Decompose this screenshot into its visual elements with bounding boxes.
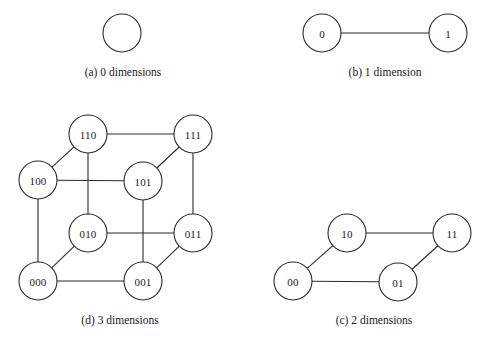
edge-001-011: [157, 246, 180, 268]
edge-00-01: [312, 281, 379, 282]
node-circle: [103, 14, 141, 52]
node-label: 1: [445, 28, 451, 40]
node-label: 01: [392, 277, 403, 289]
node-label: 001: [134, 276, 151, 288]
node-label: 011: [185, 228, 202, 240]
edge-100-110: [52, 147, 74, 167]
node-110[interactable]: 110: [69, 115, 107, 153]
node-label: 00: [287, 276, 299, 288]
panel-caption-a: (a) 0 dimensions: [85, 66, 162, 79]
node-label: 110: [80, 129, 97, 141]
node-00[interactable]: 00: [274, 262, 312, 300]
edge-01-11: [412, 246, 438, 269]
node-11[interactable]: 11: [433, 214, 471, 252]
panel-caption-b: (b) 1 dimension: [349, 66, 422, 79]
edge-101-111: [157, 147, 179, 168]
node-label: 101: [134, 176, 151, 188]
node-label: 0: [319, 28, 325, 40]
node-10[interactable]: 10: [328, 214, 366, 252]
panel-caption-d: (d) 3 dimensions: [81, 314, 159, 327]
node-111[interactable]: 111: [174, 115, 212, 153]
node-empty[interactable]: [103, 14, 141, 52]
node-001[interactable]: 001: [124, 262, 162, 300]
node-011[interactable]: 011: [174, 214, 212, 252]
node-0[interactable]: 0: [303, 14, 341, 52]
node-label: 11: [447, 228, 458, 240]
node-label: 10: [341, 228, 353, 240]
node-010[interactable]: 010: [69, 214, 107, 252]
node-01[interactable]: 01: [379, 263, 417, 301]
edge-000-010: [52, 246, 75, 268]
node-label: 010: [79, 228, 96, 240]
hypercube-figure: 0110110001110111100101010011000001 (a) 0…: [0, 0, 492, 347]
edge-00-10: [307, 246, 333, 269]
node-101[interactable]: 101: [124, 162, 162, 200]
node-100[interactable]: 100: [19, 161, 57, 199]
node-label: 000: [29, 276, 46, 288]
node-1[interactable]: 1: [429, 14, 467, 52]
panel-caption-c: (c) 2 dimensions: [336, 314, 413, 327]
node-000[interactable]: 000: [19, 262, 57, 300]
figure-canvas: 0110110001110111100101010011000001 (a) 0…: [0, 0, 492, 347]
node-label: 100: [29, 175, 46, 187]
node-label: 111: [185, 129, 201, 141]
edge-100-101: [57, 180, 124, 181]
nodes-layer: 0110110001110111100101010011000001: [19, 14, 471, 301]
